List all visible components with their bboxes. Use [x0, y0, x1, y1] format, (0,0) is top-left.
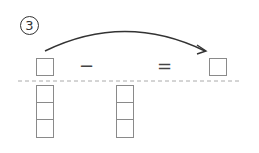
minus-operator: −	[79, 57, 94, 75]
left-column-box-1[interactable]	[36, 85, 54, 103]
left-answer-box[interactable]	[36, 58, 54, 76]
middle-column-box-1[interactable]	[116, 85, 134, 103]
middle-column-box-2[interactable]	[116, 102, 134, 120]
equals-operator: =	[157, 57, 172, 75]
left-column-box-3[interactable]	[36, 119, 54, 138]
middle-column-box-3[interactable]	[116, 119, 134, 138]
arc-arrow-icon	[45, 32, 205, 52]
left-column-box-2[interactable]	[36, 102, 54, 120]
result-box[interactable]	[209, 58, 227, 76]
